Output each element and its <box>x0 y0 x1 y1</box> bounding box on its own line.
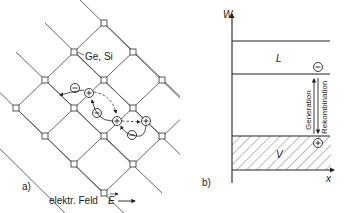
charge-carriers <box>71 84 151 140</box>
lattice-label: Ge, Si <box>85 51 113 62</box>
conduction-band-label: L <box>276 53 282 64</box>
lattice-atoms <box>13 20 165 196</box>
field-label: elektr. Feld <box>49 195 98 206</box>
x-axis-label: x <box>325 173 332 184</box>
panel-a-label: a) <box>22 181 31 192</box>
band-diagram: W x L V b) Generation Rekombination <box>202 9 334 188</box>
y-axis-label: W <box>223 9 234 20</box>
field-symbol: E <box>108 195 115 206</box>
generation-label: Generation <box>304 90 313 130</box>
motion-arrows <box>60 90 146 136</box>
panel-b-label: b) <box>202 177 211 188</box>
recombination-label: Rekombination <box>320 81 329 134</box>
diagram-canvas: Ge, Si a) elektr <box>0 0 350 213</box>
